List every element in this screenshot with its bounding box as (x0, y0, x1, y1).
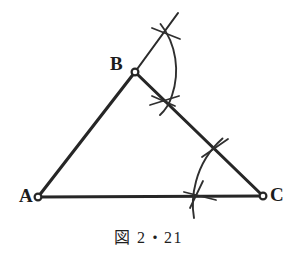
segment-bc (135, 72, 263, 196)
vertex-marker-b (132, 69, 139, 76)
geometry-figure: A B C 図 2・21 (0, 0, 297, 263)
vertex-label-b: B (110, 54, 123, 73)
arc-intersection-ticks (150, 28, 228, 208)
vertex-marker-c (260, 193, 267, 200)
figure-caption: 図 2・21 (0, 224, 297, 248)
vertex-label-c: C (270, 185, 284, 204)
vertex-label-a: A (19, 186, 33, 205)
segment-ac (38, 196, 263, 197)
segment-ab (38, 72, 135, 197)
triangle-sides (38, 72, 263, 197)
vertex-marker-a (35, 194, 42, 201)
